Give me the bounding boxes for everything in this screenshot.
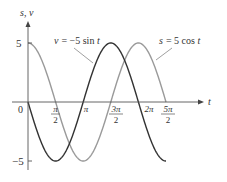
x-tick-den: 2 [53, 115, 58, 125]
t-axis-arrow-icon [198, 100, 204, 105]
x-tick-num: 5π [163, 104, 173, 114]
x-tick-num: π [53, 104, 58, 114]
x-tick-den: 2 [114, 115, 119, 125]
annotation-v-leader [74, 48, 93, 63]
x-tick-label-3pi-over-2: 3π 2 [109, 104, 123, 125]
y-axis-label: s, v [20, 7, 34, 18]
annotation-s: s= 5 cos t [156, 35, 200, 60]
annotation-v: v= −5 sin t [54, 35, 100, 63]
x-tick-num: 3π [110, 104, 121, 114]
annotation-s-leader [156, 48, 172, 60]
x-tick-label-pi: π [84, 104, 89, 114]
y-tick-label-neg5: −5 [12, 155, 24, 167]
y-axis-arrow-icon [26, 21, 31, 27]
x-tick-label-2pi: 2π [144, 104, 154, 114]
chart: s, v t 5 −5 0 π 2 π 3π 2 2π 5π 2 v= −5 s… [0, 0, 227, 182]
annotation-s-text: s= 5 cos t [159, 35, 200, 46]
y-tick-label-5: 5 [16, 37, 22, 49]
annotation-v-text: v= −5 sin t [54, 35, 100, 46]
x-axis-label: t [208, 96, 211, 107]
x-tick-label-5pi-over-2: 5π 2 [161, 104, 175, 125]
x-tick-label-0: 0 [18, 104, 23, 115]
x-tick-den: 2 [166, 115, 171, 125]
